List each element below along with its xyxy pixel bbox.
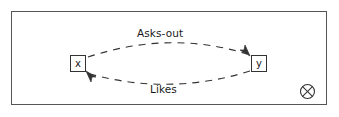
edge-asks-out-path: [88, 43, 247, 57]
diagram-canvas: x y Asks-out Likes: [0, 0, 339, 117]
node-y-label: y: [256, 59, 262, 69]
edge-asks-out-arrowhead: [240, 45, 250, 56]
edge-label-asks-out: Asks-out: [137, 27, 183, 39]
node-y[interactable]: y: [251, 55, 267, 72]
edge-likes-arrowhead: [86, 71, 96, 82]
circled-x-icon: [299, 83, 316, 100]
node-x-label: x: [75, 59, 81, 69]
edge-label-likes: Likes: [150, 83, 177, 95]
edges-layer: [0, 0, 339, 117]
node-x[interactable]: x: [70, 55, 86, 72]
